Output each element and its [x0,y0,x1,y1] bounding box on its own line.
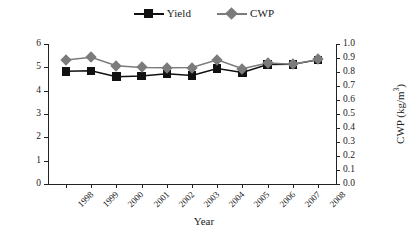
data-point-marker-yield [87,67,96,76]
x-axis-tick-label: 2004 [227,190,246,209]
data-point-marker-yield [112,72,121,81]
x-axis-tick-label: 1999 [101,190,120,209]
x-axis-tick-label: 2007 [303,190,322,209]
legend-item-cwp: CWP [217,8,274,19]
legend-label-yield: Yield [167,8,191,19]
y-axis-left-tick-label: 2 [36,132,41,142]
chart-figure: Yield CWP 0123456 0.00.10.20.30.40.50.60… [0,0,408,239]
y-axis-right-title: CWP (kg/m3) [392,44,406,184]
x-axis-tick-label: 2006 [278,190,297,209]
x-axis-tick-label: 2005 [253,190,272,209]
plot-area: 0123456 0.00.10.20.30.40.50.60.70.80.91.… [48,44,336,184]
legend-symbol-yield [134,8,164,19]
y-axis-left-tick-label: 1 [36,156,41,166]
legend-item-yield: Yield [134,8,191,19]
y-axis-left-tick-label: 3 [36,109,41,119]
y-axis-left-tick-label: 0 [36,179,41,189]
chart-legend: Yield CWP [0,8,408,19]
data-point-marker-yield [213,64,222,73]
legend-label-cwp: CWP [250,8,274,19]
y-axis-left-tick-label: 5 [36,62,41,72]
y-axis-right-title-exponent: 3 [392,88,401,92]
x-axis-tick-label: 2002 [177,190,196,209]
x-axis-tick-label: 2000 [127,190,146,209]
y-axis-right-title-end: ) [394,84,406,88]
x-axis-tick-label: 2008 [328,190,347,209]
x-axis-tick-label: 2003 [202,190,221,209]
y-axis-left-title: Yield (t/ha) [0,0,6,44]
x-axis-tick-label: 1998 [76,190,95,209]
legend-symbol-cwp [217,8,247,19]
data-point-marker-yield [62,67,71,76]
x-axis-title: Year [0,215,408,227]
y-axis-left-tick-label: 6 [36,39,41,49]
y-axis-left-tick-label: 4 [36,86,41,96]
filled-square-marker [144,9,153,18]
y-axis-right-title-main: CWP (kg/m [394,91,406,143]
x-axis-tick-label: 2001 [152,190,171,209]
filled-diamond-marker [227,9,236,18]
